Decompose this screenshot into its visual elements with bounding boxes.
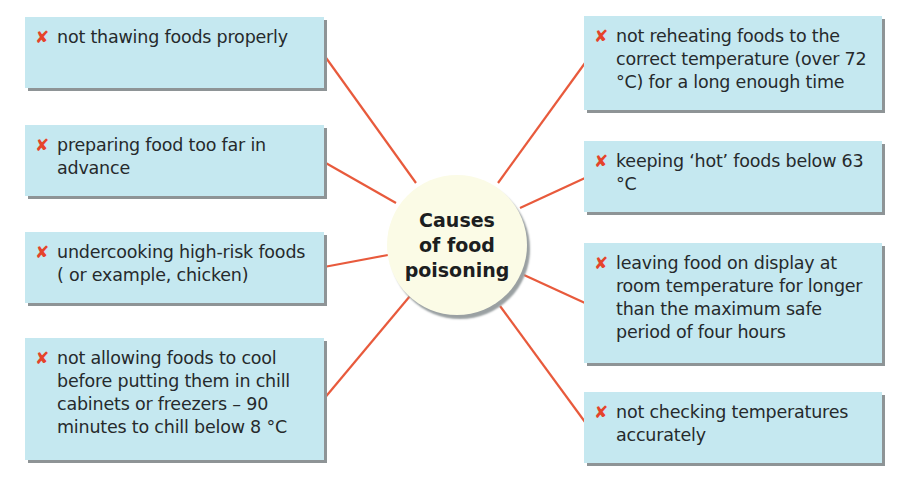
cause-text: not thawing foods properly xyxy=(57,27,288,47)
cause-box-left-2: ✘ preparing food too far in advance xyxy=(25,125,324,196)
connector-right-2 xyxy=(520,178,585,208)
cross-icon: ✘ xyxy=(594,150,608,173)
cross-icon: ✘ xyxy=(594,25,608,48)
cause-text: undercooking high-risk foods ( or exampl… xyxy=(57,242,305,285)
cross-icon: ✘ xyxy=(35,241,49,264)
cause-box-left-1: ✘ not thawing foods properly xyxy=(25,17,324,88)
connector-right-3 xyxy=(524,275,585,303)
central-topic: Causes of food poisoning xyxy=(387,175,527,315)
connector-left-2 xyxy=(324,162,396,203)
cross-icon: ✘ xyxy=(594,401,608,424)
cross-icon: ✘ xyxy=(35,26,49,49)
connector-right-4 xyxy=(500,306,585,422)
cause-box-right-3: ✘ leaving food on display at room temper… xyxy=(584,243,882,363)
cause-box-left-4: ✘ not allowing foods to cool before putt… xyxy=(25,338,324,460)
connector-left-1 xyxy=(324,55,416,183)
cross-icon: ✘ xyxy=(35,134,49,157)
cause-text: preparing food too far in advance xyxy=(57,135,266,178)
cause-text: not allowing foods to cool before puttin… xyxy=(57,348,290,437)
cause-text: not reheating foods to the correct tempe… xyxy=(616,26,866,92)
cause-box-left-3: ✘ undercooking high-risk foods ( or exam… xyxy=(25,232,324,303)
connector-left-4 xyxy=(323,296,410,400)
central-topic-line-1: Causes xyxy=(397,208,517,233)
cause-text: leaving food on display at room temperat… xyxy=(616,253,862,342)
cause-box-right-1: ✘ not reheating foods to the correct tem… xyxy=(584,16,882,110)
cause-box-right-4: ✘ not checking temperatures accurately xyxy=(584,392,882,463)
cause-text: keeping ‘hot’ foods below 63 °C xyxy=(616,151,863,194)
cause-text: not checking temperatures accurately xyxy=(616,402,848,445)
central-topic-line-3: poisoning xyxy=(397,258,517,283)
connector-right-1 xyxy=(498,63,585,183)
central-topic-line-2: of food xyxy=(397,233,517,258)
cross-icon: ✘ xyxy=(594,252,608,275)
connector-left-3 xyxy=(324,255,388,267)
cross-icon: ✘ xyxy=(35,347,49,370)
cause-box-right-2: ✘ keeping ‘hot’ foods below 63 °C xyxy=(584,141,882,212)
